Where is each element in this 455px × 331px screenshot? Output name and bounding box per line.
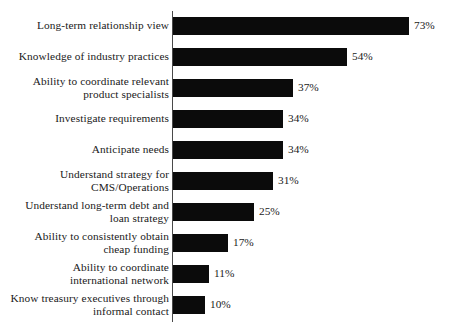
bar-value-label: 54%: [352, 50, 373, 63]
bar-value-label: 34%: [288, 112, 309, 125]
bar-value-label: 25%: [259, 205, 280, 218]
bar-value-label: 17%: [233, 236, 254, 249]
bar-value-label: 31%: [278, 174, 299, 187]
bar: [173, 296, 205, 314]
bar-row: Long-term relationship view73%: [0, 17, 455, 35]
category-label: Understand strategy for CMS/Operations: [0, 168, 169, 193]
bar-row: Understand long-term debt and loan strat…: [0, 203, 455, 221]
category-label: Anticipate needs: [0, 143, 169, 156]
bar-row: Ability to coordinate international netw…: [0, 265, 455, 283]
bar: [173, 234, 228, 252]
bar: [173, 79, 293, 97]
bar-row: Ability to consistently obtain cheap fun…: [0, 234, 455, 252]
bar: [173, 17, 409, 35]
bar-row: Investigate requirements34%: [0, 110, 455, 128]
bar-row: Anticipate needs34%: [0, 141, 455, 159]
category-label: Ability to consistently obtain cheap fun…: [0, 230, 169, 255]
bar: [173, 203, 254, 221]
category-label: Ability to coordinate international netw…: [0, 261, 169, 286]
category-label: Investigate requirements: [0, 112, 169, 125]
bar-value-label: 34%: [288, 143, 309, 156]
bar: [173, 265, 209, 283]
bar-row: Understand strategy for CMS/Operations31…: [0, 172, 455, 190]
bar-row: Knowledge of industry practices54%: [0, 48, 455, 66]
bar-value-label: 73%: [414, 19, 435, 32]
category-label: Understand long-term debt and loan strat…: [0, 199, 169, 224]
bar-row: Know treasury executives through informa…: [0, 296, 455, 314]
bar: [173, 172, 273, 190]
bar-value-label: 37%: [298, 81, 319, 94]
category-label: Ability to coordinate relevant product s…: [0, 75, 169, 100]
bar-value-label: 10%: [210, 298, 231, 311]
bar: [173, 141, 283, 159]
bar: [173, 110, 283, 128]
category-label: Know treasury executives through informa…: [0, 292, 169, 317]
bar-row: Ability to coordinate relevant product s…: [0, 79, 455, 97]
bar: [173, 48, 347, 66]
bar-value-label: 11%: [214, 267, 234, 280]
horizontal-bar-chart: Long-term relationship view73%Knowledge …: [0, 0, 455, 331]
category-label: Knowledge of industry practices: [0, 50, 169, 63]
category-label: Long-term relationship view: [0, 19, 169, 32]
